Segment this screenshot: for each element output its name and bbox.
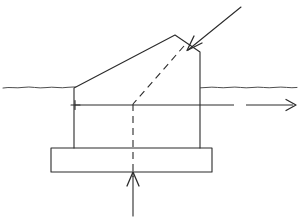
wedge-body-fill xyxy=(74,35,200,148)
diagram-canvas xyxy=(0,0,300,221)
applied-load-arrow-top-right xyxy=(188,7,241,50)
line-drawing-svg xyxy=(0,0,300,221)
base-footing-rectangle xyxy=(51,148,212,172)
